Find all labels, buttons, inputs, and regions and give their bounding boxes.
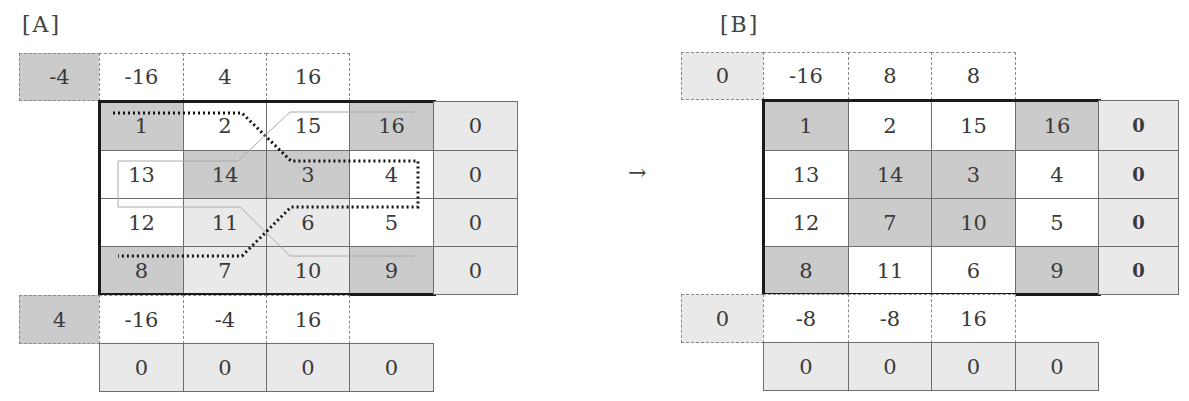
a-grid-cell: 9 xyxy=(349,246,434,295)
a-grid-cell: 11 xyxy=(183,198,267,247)
b-grid-cell: 5 xyxy=(1015,198,1099,247)
a-zero-cell: 0 xyxy=(99,343,184,392)
a-grid-cell: 10 xyxy=(266,246,350,295)
b-grid-cell: 8 xyxy=(763,246,849,295)
a-zero-cell: 0 xyxy=(266,343,350,392)
a-grid-cell: 12 xyxy=(99,198,184,247)
a-zero-cell: 0 xyxy=(349,343,434,392)
a-grid-cell: 4 xyxy=(349,150,434,199)
a-bottom-cell: -4 xyxy=(183,295,267,344)
a-right-cell: 0 xyxy=(433,198,518,247)
a-grid-cell: 3 xyxy=(266,150,350,199)
b-bottom-left-cell: 0 xyxy=(681,294,764,343)
a-grid-cell: 7 xyxy=(183,246,267,295)
b-grid-cell: 3 xyxy=(931,150,1016,199)
b-grid-cell: 6 xyxy=(931,246,1016,295)
b-right-cell: 0 xyxy=(1098,198,1179,247)
b-grid-cell: 9 xyxy=(1015,246,1099,295)
b-grid-cell: 4 xyxy=(1015,150,1099,199)
b-top-cell: -16 xyxy=(763,52,849,100)
b-grid-cell: 1 xyxy=(763,100,849,151)
b-right-cell: 0 xyxy=(1098,150,1179,199)
b-grid-cell: 10 xyxy=(931,198,1016,247)
a-top-cell: 4 xyxy=(183,53,267,101)
panel-b-label: [B] xyxy=(720,12,759,37)
b-right-cell: 0 xyxy=(1098,100,1179,151)
b-grid-cell: 2 xyxy=(848,100,932,151)
a-grid-cell: 15 xyxy=(266,101,350,151)
b-zero-cell: 0 xyxy=(848,342,932,391)
b-top-cell: 8 xyxy=(931,52,1016,100)
b-zero-cell: 0 xyxy=(763,342,849,391)
transform-arrow-icon: → xyxy=(628,160,646,185)
a-top-cell: -16 xyxy=(99,53,184,101)
a-right-cell: 0 xyxy=(433,246,518,295)
a-grid-cell: 14 xyxy=(183,150,267,199)
a-top-cell: 16 xyxy=(266,53,350,101)
a-grid-cell: 5 xyxy=(349,198,434,247)
panel-a-label: [A] xyxy=(22,12,61,37)
a-grid-cell: 1 xyxy=(99,101,184,151)
b-top-cell: 8 xyxy=(848,52,932,100)
b-bottom-cell: -8 xyxy=(763,294,849,343)
b-bottom-cell: -8 xyxy=(848,294,932,343)
b-grid-cell: 13 xyxy=(763,150,849,199)
b-grid-cell: 7 xyxy=(848,198,932,247)
a-grid-cell: 6 xyxy=(266,198,350,247)
a-right-cell: 0 xyxy=(433,101,518,151)
b-zero-cell: 0 xyxy=(931,342,1016,391)
a-top-left-cell: -4 xyxy=(19,53,100,101)
a-bottom-cell: -16 xyxy=(99,295,184,344)
b-right-cell: 0 xyxy=(1098,246,1179,295)
b-grid-cell: 15 xyxy=(931,100,1016,151)
b-grid-cell: 11 xyxy=(848,246,932,295)
b-bottom-cell: 16 xyxy=(931,294,1016,343)
a-right-cell: 0 xyxy=(433,150,518,199)
a-grid-cell: 2 xyxy=(183,101,267,151)
a-bottom-left-cell: 4 xyxy=(19,295,100,344)
a-grid-cell: 16 xyxy=(349,101,434,151)
b-grid-cell: 16 xyxy=(1015,100,1099,151)
a-grid-cell: 13 xyxy=(99,150,184,199)
a-zero-cell: 0 xyxy=(183,343,267,392)
b-grid-cell: 14 xyxy=(848,150,932,199)
b-zero-cell: 0 xyxy=(1015,342,1099,391)
a-bottom-cell: 16 xyxy=(266,295,350,344)
a-grid-cell: 8 xyxy=(99,246,184,295)
b-top-left-cell: 0 xyxy=(681,52,764,100)
b-grid-cell: 12 xyxy=(763,198,849,247)
